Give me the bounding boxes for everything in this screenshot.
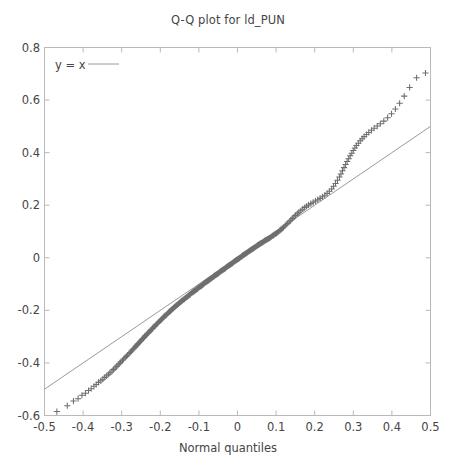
x-tick-label: 0.1 (254, 421, 298, 433)
x-tick-label: -0.2 (138, 421, 182, 433)
x-tick-label: 0 (216, 421, 260, 433)
x-tick-label: 0.2 (293, 421, 337, 433)
x-tick-label: -0.4 (61, 421, 105, 433)
x-axis-title: Normal quantiles (0, 441, 456, 455)
y-tick-label: 0.6 (0, 94, 40, 106)
y-tick-label: 0.2 (0, 199, 40, 211)
x-tick-label: 0.3 (331, 421, 375, 433)
y-tick-label: 0.4 (0, 147, 40, 159)
y-tick-label: -0.4 (0, 357, 40, 369)
page-title: Q-Q plot for ld_PUN (0, 13, 456, 27)
y-tick-label: -0.2 (0, 304, 40, 316)
x-tick-label: -0.5 (23, 421, 67, 433)
x-tick-label: -0.1 (177, 421, 221, 433)
x-tick-label: 0.5 (409, 421, 453, 433)
plot-frame (45, 48, 431, 416)
qq-plot-figure: Q-Q plot for ld_PUN y = x -0.6-0.4-0.200… (0, 0, 456, 476)
y-tick-label: 0.8 (0, 42, 40, 54)
y-tick-label: 0 (0, 252, 40, 264)
x-tick-label: -0.3 (100, 421, 144, 433)
data-point-markers (54, 70, 429, 415)
axis-ticks (45, 48, 431, 416)
x-tick-label: 0.4 (370, 421, 414, 433)
legend-label: y = x (55, 58, 86, 72)
